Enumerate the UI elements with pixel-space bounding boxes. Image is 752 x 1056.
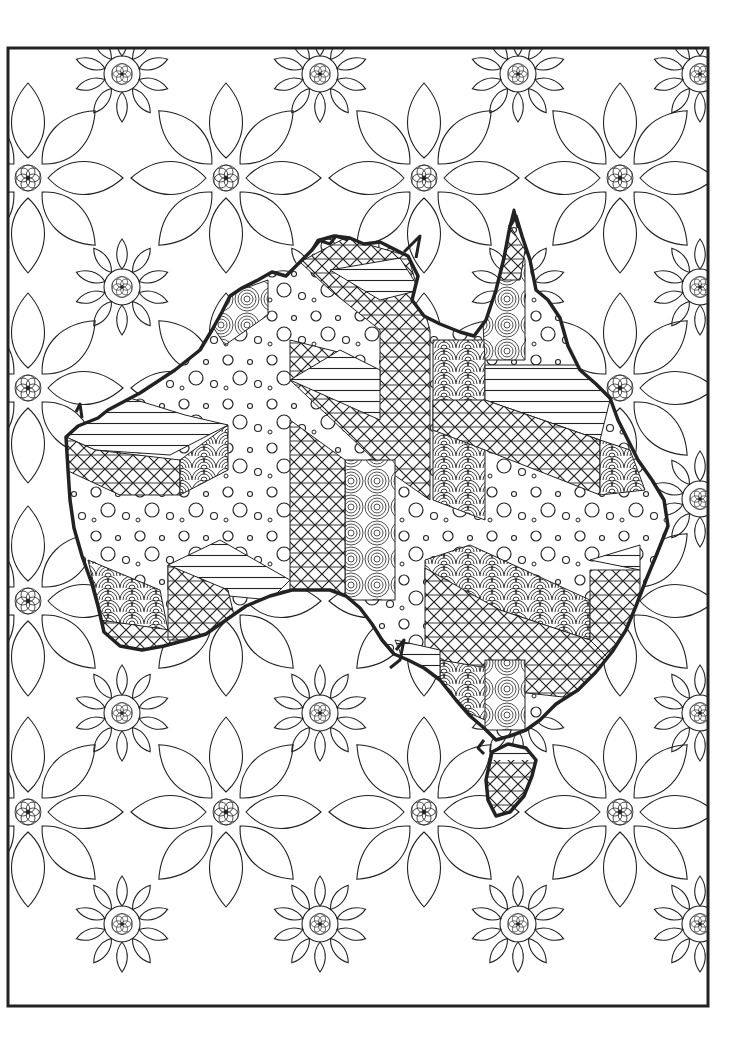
- coloring-page-artwork: [0, 0, 752, 1056]
- region-central-circles: [345, 460, 395, 600]
- region-victoria-circles: [485, 660, 525, 730]
